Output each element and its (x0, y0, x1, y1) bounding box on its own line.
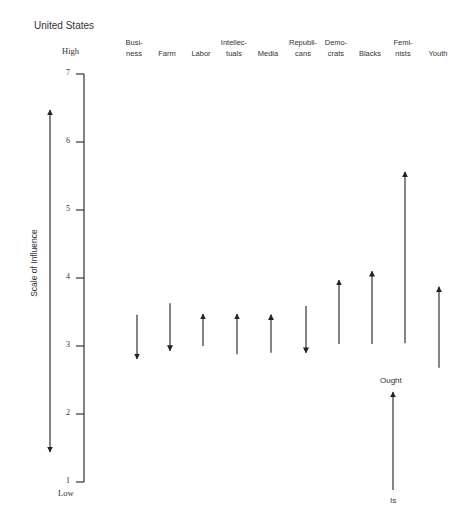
plot-area (0, 0, 464, 520)
category-arrows (137, 172, 439, 368)
legend-is-label: Is (390, 496, 396, 505)
legend-ought-label: Ought (380, 376, 402, 385)
y-ticks (76, 74, 84, 482)
